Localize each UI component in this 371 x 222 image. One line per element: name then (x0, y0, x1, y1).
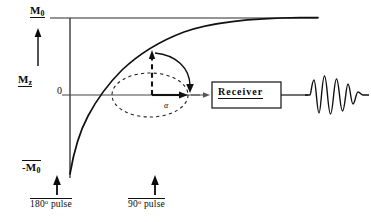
signal-connector-arrow (191, 92, 210, 98)
y-axis-quantity-label: Mz (18, 74, 32, 87)
fid-waveform (305, 76, 369, 114)
flip-angle-label: α (164, 102, 168, 110)
transverse-vector-solid (152, 92, 188, 99)
tipping-curved-arrow (155, 53, 194, 93)
y-axis-zero-label: 0 (57, 86, 62, 96)
receiver-label: Receiver (218, 87, 263, 97)
pulse-180-arrow (53, 175, 61, 195)
pulse-90-arrow (151, 175, 159, 195)
y-axis-top-label: M0 (30, 5, 45, 18)
pulse-180-label: 180o pulse (30, 199, 72, 209)
y-axis-bottom-label: -M0 (22, 162, 41, 175)
pulse-90-label: 90o pulse (128, 199, 165, 209)
figure-canvas (0, 0, 371, 222)
nmr-inversion-recovery-figure: M0 Mz 0 -M0 180o pulse 90o pulse α Recei… (0, 0, 371, 222)
mz-axis-arrow (35, 28, 42, 66)
